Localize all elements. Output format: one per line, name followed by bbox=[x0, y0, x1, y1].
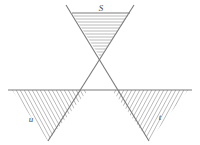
label-region-u: u bbox=[29, 114, 34, 124]
label-region-s: S bbox=[99, 3, 104, 13]
figure-canvas: S u t bbox=[0, 0, 200, 145]
cone-diagram: S u t bbox=[0, 0, 200, 145]
